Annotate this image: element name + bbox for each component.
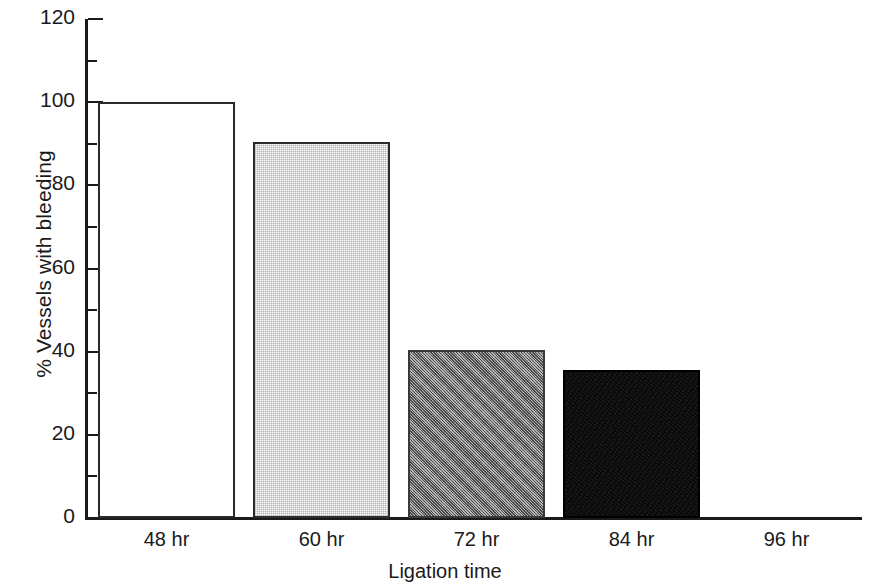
y-tick-label: 120 <box>13 5 75 29</box>
bar-48-hr <box>98 102 235 518</box>
x-category-label: 96 hr <box>707 528 867 551</box>
bar-72-hr <box>408 350 545 518</box>
y-tick-minor <box>88 475 97 477</box>
bar-60-hr <box>253 142 390 518</box>
y-tick-label: 20 <box>13 421 75 445</box>
x-category-label: 84 hr <box>552 528 712 551</box>
y-tick-minor <box>88 309 97 311</box>
y-tick-label: 100 <box>13 88 75 112</box>
y-tick-label: 40 <box>13 338 75 362</box>
y-tick-label: 0 <box>13 504 75 528</box>
y-tick-major <box>88 18 103 20</box>
x-category-label: 72 hr <box>397 528 557 551</box>
x-axis-title: Ligation time <box>330 560 560 583</box>
y-tick-label: 80 <box>13 171 75 195</box>
x-category-label: 48 hr <box>87 528 247 551</box>
bar-84-hr <box>563 370 700 518</box>
x-category-label: 60 hr <box>242 528 402 551</box>
y-tick-label: 60 <box>13 255 75 279</box>
y-tick-minor <box>88 226 97 228</box>
y-tick-minor <box>88 143 97 145</box>
bar-chart-figure: % Vessels with bleeding 020406080100120 … <box>0 0 880 585</box>
plot-area: 020406080100120 48 hr60 hr72 hr84 hr96 h… <box>0 0 880 585</box>
y-tick-minor <box>88 392 97 394</box>
y-tick-minor <box>88 60 97 62</box>
y-axis-line <box>85 19 88 520</box>
